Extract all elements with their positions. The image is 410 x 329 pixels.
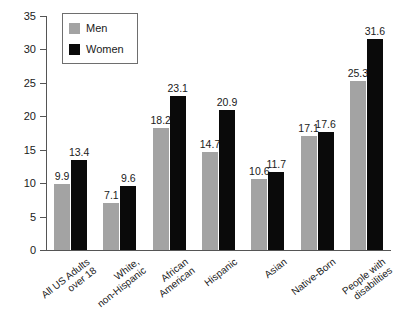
y-axis-tick: [40, 250, 46, 251]
y-axis-tick-label: 5: [6, 212, 36, 223]
bar-women: [367, 39, 383, 250]
y-axis-tick-label: 15: [6, 145, 36, 156]
bar-men: [301, 136, 317, 250]
bar-value-label: 31.6: [361, 26, 389, 37]
bar-men: [54, 184, 70, 250]
legend-swatch-women-icon: [69, 44, 80, 55]
x-axis-label: Native-Born: [289, 256, 337, 297]
y-axis-tick-label: 10: [6, 178, 36, 189]
x-axis-label-line: Native-Born: [289, 256, 337, 297]
x-axis-label-line: Asian: [262, 256, 288, 280]
legend-swatch-men-icon: [69, 23, 80, 34]
bar-value-label: 9.6: [114, 173, 142, 184]
bar-women: [71, 160, 87, 250]
bar-value-label: 17.6: [312, 119, 340, 130]
legend-entry-men: Men: [69, 21, 107, 35]
x-axis-label: Hispanic: [202, 256, 239, 288]
bar-women: [268, 172, 284, 250]
bar-value-label: 11.7: [262, 159, 290, 170]
x-axis-label: White,non-Hispanic: [88, 256, 148, 309]
bar-women: [219, 110, 235, 250]
legend-entry-women: Women: [69, 42, 124, 56]
bar-women: [318, 132, 334, 250]
y-axis-tick-label: 30: [6, 44, 36, 55]
bar-women: [170, 96, 186, 250]
legend-label-women: Women: [86, 44, 124, 55]
bar-men: [350, 81, 366, 250]
bar-value-label: 13.4: [65, 147, 93, 158]
x-axis-label: All US Adultsover 18: [39, 256, 98, 309]
chart-legend: Men Women: [62, 13, 138, 64]
bar-men: [103, 203, 119, 250]
y-axis-tick-label: 0: [6, 245, 36, 256]
bar-value-label: 20.9: [213, 97, 241, 108]
bar-chart-figure: 05101520253035 9.913.47.19.618.223.114.7…: [0, 0, 410, 329]
y-axis-tick-label: 35: [6, 11, 36, 22]
bar-value-label: 23.1: [164, 83, 192, 94]
x-axis-label-line: Hispanic: [202, 256, 239, 288]
legend-label-men: Men: [86, 23, 107, 34]
bar-men: [251, 179, 267, 250]
x-axis-label: Asian: [262, 256, 288, 280]
x-axis-line: [46, 250, 391, 251]
y-axis-tick-label: 25: [6, 78, 36, 89]
x-axis-label: AfricanAmerican: [150, 256, 197, 299]
x-axis-label: People withdisabilities: [340, 256, 394, 305]
bar-men: [153, 128, 169, 250]
bar-women: [120, 186, 136, 250]
bar-men: [202, 152, 218, 250]
y-axis-tick-label: 20: [6, 111, 36, 122]
